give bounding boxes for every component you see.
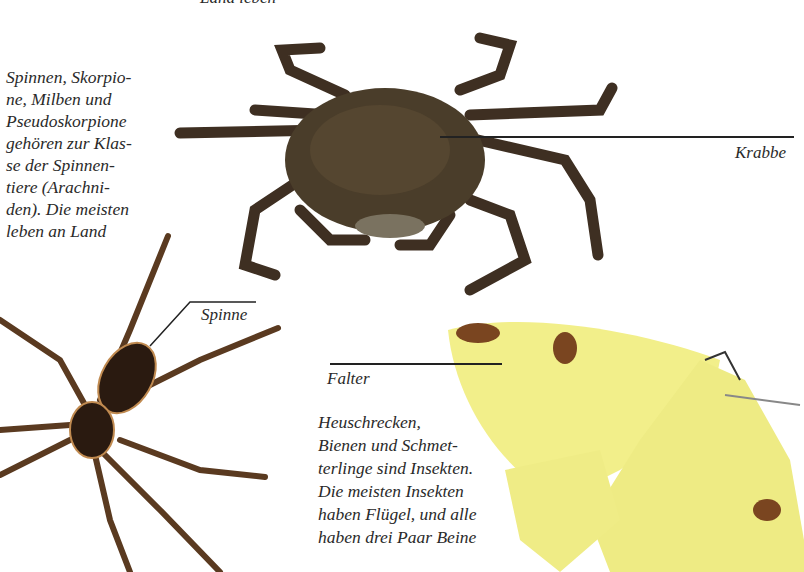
moth-label: Falter [327,369,370,389]
moth-leader-line [330,363,502,365]
spider-label: Spinne [201,305,247,325]
insect-paragraph: Heuschrecken, Bienen und Schmet- terling… [318,411,518,549]
